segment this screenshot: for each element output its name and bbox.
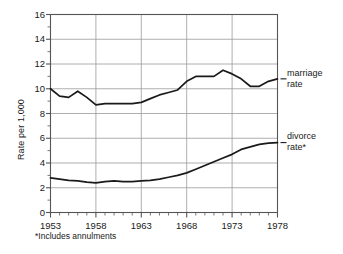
- x-axis-tick-label: 1958: [79, 220, 113, 231]
- series-label-marriage: marriage rate: [287, 68, 323, 90]
- x-axis-tick-label: 1968: [170, 220, 204, 231]
- series-label-divorce-line1: divorce: [287, 131, 316, 142]
- x-axis-tick-label: 1973: [215, 220, 249, 231]
- series-label-marriage-line1: marriage: [287, 68, 323, 79]
- x-axis-tick-label: 1978: [261, 220, 295, 231]
- chart-figure: Rate per 1,000 marriage rate divorce rat…: [0, 0, 343, 254]
- x-axis-tick-label: 1953: [34, 220, 68, 231]
- y-axis-tick-label: 2: [25, 182, 45, 193]
- y-axis-tick-label: 8: [25, 108, 45, 119]
- y-axis-tick-label: 10: [25, 83, 45, 94]
- y-axis-tick-label: 4: [25, 157, 45, 168]
- y-axis-tick-label: 6: [25, 132, 45, 143]
- y-axis-tick-label: 12: [25, 58, 45, 69]
- x-axis-tick-label: 1963: [124, 220, 158, 231]
- line-chart-plot: [0, 0, 343, 254]
- y-axis-tick-label: 0: [25, 207, 45, 218]
- chart-footnote: *Includes annulments: [35, 231, 116, 241]
- series-line-marriage: [51, 70, 278, 105]
- series-label-divorce: divorce rate*: [287, 131, 316, 153]
- y-axis-tick-label: 14: [25, 33, 45, 44]
- series-label-divorce-line2: rate*: [287, 142, 316, 153]
- y-axis-tick-label: 16: [25, 9, 45, 20]
- series-label-marriage-line2: rate: [287, 79, 323, 90]
